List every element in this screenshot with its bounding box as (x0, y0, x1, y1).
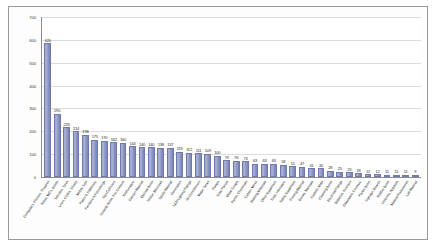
bar-slot: 12 (363, 17, 372, 177)
bar-value-label: 40 (319, 164, 323, 168)
bar-slot: 28 (326, 17, 335, 177)
bar[interactable] (157, 148, 164, 177)
y-tick-labels: 0100200300400500600700 (9, 17, 36, 177)
bar[interactable] (365, 174, 372, 177)
bar[interactable] (101, 141, 108, 177)
bar-value-label: 175 (92, 135, 98, 139)
bar-slot: 63 (260, 17, 269, 177)
bar-value-label: 11 (394, 170, 398, 174)
bar-value-label: 198 (82, 130, 88, 134)
bar[interactable] (327, 171, 334, 177)
bar-value-label: 63 (272, 159, 276, 163)
y-tick-label: 700 (29, 15, 36, 20)
bar-slot: 112 (184, 17, 193, 177)
bar[interactable] (280, 165, 287, 177)
bar-value-label: 140 (139, 143, 145, 147)
bar-slot: 233 (62, 17, 71, 177)
bar[interactable] (82, 135, 89, 177)
bar-value-label: 214 (73, 127, 79, 131)
bar[interactable] (139, 147, 146, 177)
bar-value-label: 111 (196, 149, 201, 153)
x-axis-category-labels: Computers, Phones, TheatresToilets, WCs,… (41, 179, 421, 237)
bar-slot: 160 (118, 17, 127, 177)
bar-slot: 198 (81, 17, 90, 177)
bar-value-label: 11 (404, 170, 408, 174)
bar-slot: 170 (100, 17, 109, 177)
bar-slot: 9 (410, 17, 419, 177)
bar-slot: 11 (382, 17, 391, 177)
bar[interactable] (63, 127, 70, 177)
bar[interactable] (195, 153, 202, 177)
bar-slot: 175 (90, 17, 99, 177)
bar[interactable] (289, 166, 296, 177)
bar-value-label: 138 (158, 143, 164, 147)
bar[interactable] (214, 156, 221, 177)
y-tick-label: 600 (29, 37, 36, 42)
bar-slot: 18 (354, 17, 363, 177)
bar-slot: 140 (147, 17, 156, 177)
bar[interactable] (252, 164, 259, 177)
bar[interactable] (148, 147, 155, 177)
bar-slot: 40 (316, 17, 325, 177)
bar-value-label: 295 (54, 109, 60, 113)
bar[interactable] (54, 114, 61, 177)
bar-slot: 626 (43, 17, 52, 177)
bar[interactable] (412, 175, 419, 177)
bar[interactable] (186, 153, 193, 177)
bar-slot: 138 (156, 17, 165, 177)
bar[interactable] (318, 168, 325, 177)
bar-slot: 76 (231, 17, 240, 177)
bar-slot: 109 (203, 17, 212, 177)
bar-slot: 100 (213, 17, 222, 177)
bar-value-label: 233 (64, 123, 70, 127)
bar-slot: 25 (335, 17, 344, 177)
bar-value-label: 23 (347, 168, 351, 172)
bar-value-label: 25 (338, 167, 342, 171)
bar-slot: 41 (307, 17, 316, 177)
bar[interactable] (120, 143, 127, 177)
bar[interactable] (223, 160, 230, 177)
bar[interactable] (233, 161, 240, 177)
bar-value-label: 41 (309, 164, 313, 168)
bar-value-label: 170 (101, 136, 107, 140)
bar-value-label: 119 (177, 147, 183, 151)
chart-frame: 0100200300400500600700 62629523321419817… (8, 6, 428, 240)
bar-value-label: 12 (366, 170, 370, 174)
bar-value-label: 63 (262, 159, 266, 163)
bar[interactable] (204, 154, 211, 177)
bar-slot: 79 (222, 17, 231, 177)
bar-value-label: 112 (186, 148, 192, 152)
bar[interactable] (91, 140, 98, 177)
bar[interactable] (374, 174, 381, 177)
bar[interactable] (110, 142, 117, 177)
y-tick-label: 300 (29, 106, 36, 111)
bar[interactable] (355, 173, 362, 177)
bar-slot: 23 (345, 17, 354, 177)
bar-value-label: 51 (291, 162, 295, 166)
bar[interactable] (393, 175, 400, 177)
bar-slot: 73 (241, 17, 250, 177)
bar[interactable] (242, 161, 249, 177)
bar[interactable] (299, 167, 306, 177)
bar[interactable] (73, 131, 80, 177)
bar[interactable] (261, 164, 268, 177)
x-label-slot: Lab Material (411, 179, 420, 237)
bar[interactable] (129, 146, 136, 177)
y-axis: 0100200300400500600700 (9, 17, 39, 177)
bar[interactable] (176, 152, 183, 177)
bar-slot: 119 (175, 17, 184, 177)
bar-value-label: 626 (45, 39, 51, 43)
bar[interactable] (167, 148, 174, 177)
plot-area: 6262952332141981751701621601441401401381… (41, 17, 421, 178)
bar[interactable] (308, 168, 315, 177)
bar-value-label: 109 (205, 149, 211, 153)
bar-value-label: 18 (357, 169, 361, 173)
bar[interactable] (346, 172, 353, 177)
bar[interactable] (44, 43, 51, 177)
bar[interactable] (270, 164, 277, 177)
bar[interactable] (384, 175, 391, 177)
bar[interactable] (336, 172, 343, 177)
bar[interactable] (402, 175, 409, 177)
bar-slot: 137 (165, 17, 174, 177)
bar-slot: 111 (194, 17, 203, 177)
